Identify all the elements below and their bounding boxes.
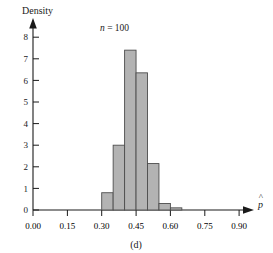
histogram-bar	[113, 145, 124, 210]
x-tick-label-1: 0.15	[60, 221, 76, 231]
x-axis-ticks: 0.00 0.15 0.30 0.45 0.60 0.75 0.90	[25, 210, 247, 231]
y-tick-label-7: 7	[24, 54, 29, 64]
histogram-bar	[136, 73, 147, 210]
y-tick-label-8: 8	[24, 32, 29, 42]
histogram-bar	[102, 193, 113, 210]
y-tick-label-3: 3	[24, 140, 29, 150]
y-tick-label-0: 0	[24, 205, 29, 215]
x-tick-label-6: 0.90	[231, 221, 247, 231]
histogram-figure: Density n = 100 p ^ 0 1 2 3 4	[0, 0, 273, 253]
histogram-bar	[170, 208, 181, 210]
sample-size-annotation: n = 100	[100, 23, 129, 33]
x-tick-label-2: 0.30	[94, 221, 110, 231]
histogram-bar	[148, 164, 159, 210]
y-tick-label-6: 6	[24, 76, 29, 86]
x-tick-label-5: 0.75	[197, 221, 213, 231]
x-axis-arrowhead	[243, 206, 254, 214]
x-axis-title-hat: ^	[259, 192, 264, 202]
annotation-value: = 100	[105, 23, 130, 33]
histogram-bar	[159, 204, 170, 210]
y-tick-label-1: 1	[24, 184, 29, 194]
x-tick-label-4: 0.60	[163, 221, 179, 231]
y-tick-label-5: 5	[24, 97, 29, 107]
x-tick-label-0: 0.00	[25, 221, 41, 231]
y-axis-arrowhead	[29, 18, 37, 29]
density-histogram-chart: Density n = 100 p ^ 0 1 2 3 4	[0, 0, 273, 253]
x-tick-label-3: 0.45	[128, 221, 144, 231]
y-axis-title: Density	[22, 5, 53, 16]
y-tick-label-2: 2	[24, 162, 29, 172]
y-tick-label-4: 4	[24, 119, 29, 129]
histogram-bars	[102, 50, 182, 210]
histogram-bar	[125, 50, 136, 210]
y-axis-ticks: 0 1 2 3 4 5 6 7 8	[24, 32, 40, 215]
figure-caption: (d)	[130, 239, 142, 251]
